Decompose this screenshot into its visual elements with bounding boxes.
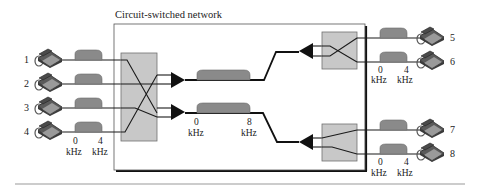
phone-1[interactable]: 1 bbox=[24, 49, 62, 68]
right-phones: 5 6 7 8 bbox=[417, 27, 455, 162]
trunk-band-labels: 0 8 kHz kHz bbox=[188, 117, 257, 138]
svg-text:4: 4 bbox=[404, 65, 409, 75]
svg-text:0: 0 bbox=[378, 157, 383, 167]
svg-text:kHz: kHz bbox=[371, 75, 387, 85]
right-bottom-switch bbox=[322, 124, 357, 161]
telephone-icon bbox=[35, 73, 62, 92]
svg-text:kHz: kHz bbox=[188, 128, 204, 138]
svg-text:8: 8 bbox=[247, 117, 252, 127]
svg-text:0: 0 bbox=[194, 117, 199, 127]
phone-6[interactable]: 6 bbox=[417, 51, 455, 70]
phone-label: 1 bbox=[24, 54, 29, 65]
left-switch bbox=[121, 53, 157, 141]
svg-text:kHz: kHz bbox=[397, 75, 413, 85]
telephone-icon bbox=[417, 27, 444, 46]
multiplexer-icon bbox=[171, 72, 185, 88]
phone-3[interactable]: 3 bbox=[24, 97, 62, 116]
telephone-icon bbox=[35, 49, 62, 68]
svg-text:4: 4 bbox=[98, 136, 103, 146]
svg-text:kHz: kHz bbox=[371, 168, 387, 178]
right-top-switch bbox=[322, 32, 357, 69]
phone-label: 6 bbox=[450, 56, 455, 67]
left-mux-inputs bbox=[157, 75, 172, 117]
trunk-spectra bbox=[197, 70, 250, 113]
telephone-icon bbox=[417, 143, 444, 162]
left-voice-spectra bbox=[75, 50, 102, 132]
phone-label: 7 bbox=[450, 124, 455, 135]
telephone-icon bbox=[35, 97, 62, 116]
phone-7[interactable]: 7 bbox=[417, 119, 455, 138]
right-demux-outputs bbox=[312, 46, 322, 147]
telephone-icon bbox=[35, 121, 62, 140]
phone-label: 3 bbox=[24, 102, 29, 113]
phone-4[interactable]: 4 bbox=[24, 121, 62, 140]
svg-text:0: 0 bbox=[73, 136, 78, 146]
phone-label: 8 bbox=[450, 148, 455, 159]
phone-5[interactable]: 5 bbox=[417, 27, 455, 46]
phone-label: 5 bbox=[450, 32, 455, 43]
phone-label: 4 bbox=[24, 126, 29, 137]
multiplexer-icon bbox=[171, 104, 185, 120]
phone-8[interactable]: 8 bbox=[417, 143, 455, 162]
svg-text:kHz: kHz bbox=[397, 168, 413, 178]
left-access-lines bbox=[62, 60, 121, 132]
demultiplexer-icon bbox=[299, 134, 313, 150]
circuit-switched-network-diagram: Circuit-switched network 1 2 3 4 bbox=[0, 0, 481, 187]
telephone-icon bbox=[417, 119, 444, 138]
demultiplexer-icon bbox=[299, 43, 313, 59]
telephone-icon bbox=[417, 51, 444, 70]
svg-text:0: 0 bbox=[378, 65, 383, 75]
svg-text:4: 4 bbox=[404, 157, 409, 167]
right-voice-spectra bbox=[380, 28, 407, 154]
svg-text:kHz: kHz bbox=[66, 147, 82, 157]
svg-text:kHz: kHz bbox=[92, 147, 108, 157]
phone-label: 2 bbox=[24, 78, 29, 89]
phone-2[interactable]: 2 bbox=[24, 73, 62, 92]
network-title: Circuit-switched network bbox=[115, 9, 223, 20]
left-band-labels: 0 4 kHz kHz bbox=[66, 136, 108, 157]
svg-text:kHz: kHz bbox=[241, 128, 257, 138]
left-phones: 1 2 3 4 bbox=[24, 49, 62, 140]
